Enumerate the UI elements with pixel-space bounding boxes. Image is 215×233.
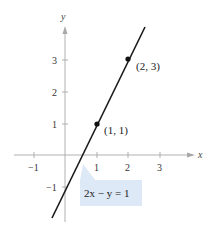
x-tick-label-neg1: −1 [28, 162, 39, 173]
y-tick-label-neg1: −1 [46, 182, 57, 193]
y-tick-label-1: 1 [52, 119, 57, 130]
x-axis-label: x [197, 149, 203, 160]
y-axis-arrow-icon [63, 26, 68, 34]
y-tick-label-3: 3 [52, 55, 57, 66]
y-tick-label-2: 2 [52, 87, 57, 98]
y-axis-label: y [60, 11, 66, 22]
x-tick-label-2: 2 [125, 162, 130, 173]
x-tick-label-3: 3 [157, 162, 162, 173]
x-tick-label-1: 1 [94, 162, 99, 173]
point-1-1-label: (1, 1) [104, 124, 128, 137]
point-1-1 [94, 121, 99, 126]
x-axis-arrow-icon [187, 153, 195, 158]
graph-canvas: −1 1 2 3 3 2 1 −1 x y (1, 1) (2, 3) 2x −… [0, 0, 215, 233]
equation-label: 2x − y = 1 [84, 187, 129, 199]
point-2-3 [125, 56, 130, 61]
point-2-3-label: (2, 3) [136, 60, 160, 73]
